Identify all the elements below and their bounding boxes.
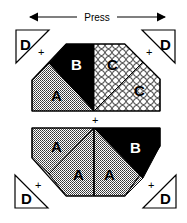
piece-label-c: C — [107, 56, 118, 73]
plus-marker-center: + — [92, 114, 98, 126]
piece-label-a: A — [51, 87, 62, 104]
piece-label-d: D — [160, 190, 171, 207]
piece-label-b: B — [130, 139, 141, 156]
plus-marker: + — [38, 46, 44, 58]
corner-d-bottom-right: D + — [143, 175, 176, 208]
plus-marker: + — [148, 179, 154, 191]
plus-marker: + — [146, 46, 152, 58]
piece-label-a: A — [51, 138, 62, 155]
piece-label-d: D — [20, 36, 31, 53]
corner-d-top-right: D + — [142, 30, 175, 63]
corner-d-top-left: D + — [16, 30, 49, 63]
top-unit: B A C C — [32, 44, 160, 111]
piece-label-d: D — [21, 190, 32, 207]
piece-label-d: D — [160, 36, 171, 53]
press-arrow: Press — [30, 12, 165, 23]
piece-label-c: C — [134, 82, 145, 99]
corner-d-bottom-left: D + — [15, 175, 48, 208]
quilt-block-diagram: Press D + D + B A C C + — [0, 0, 187, 223]
plus-marker: + — [35, 179, 41, 191]
piece-label-b: B — [71, 56, 82, 73]
press-label: Press — [84, 12, 110, 23]
piece-label-a: A — [104, 166, 115, 183]
bottom-unit: A A A B — [32, 128, 160, 196]
piece-label-a: A — [73, 166, 84, 183]
